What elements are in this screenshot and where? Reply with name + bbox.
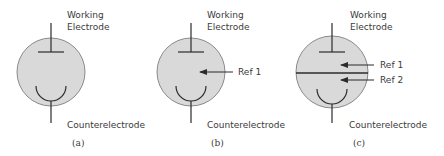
working-electrode-label-line2: Electrode [350, 22, 393, 32]
working-electrode-label-line1: Working [67, 10, 104, 20]
ref1-label: Ref 1 [380, 60, 403, 70]
counterelectrode-label: Counterelectrode [67, 120, 146, 130]
caption-b: (b) [211, 138, 224, 148]
caption-a: (a) [72, 138, 84, 148]
caption-c: (c) [353, 138, 365, 148]
working-electrode-label-line2: Electrode [207, 22, 250, 32]
counterelectrode-label: Counterelectrode [207, 120, 286, 130]
working-electrode-label-line2: Electrode [67, 22, 110, 32]
panel-b: Ref 1 Working Electrode Counterelectrode… [157, 10, 286, 148]
panel-c: Ref 1 Ref 2 Working Electrode Counterele… [296, 10, 428, 148]
counterelectrode-label: Counterelectrode [349, 120, 428, 130]
electrode-diagram: Working Electrode Counterelectrode (a) R… [0, 0, 444, 156]
ref1-label: Ref 1 [238, 67, 261, 77]
ref2-label: Ref 2 [380, 75, 403, 85]
working-electrode-label-line1: Working [350, 10, 387, 20]
working-electrode-label-line1: Working [207, 10, 244, 20]
panel-a: Working Electrode Counterelectrode (a) [17, 10, 146, 148]
